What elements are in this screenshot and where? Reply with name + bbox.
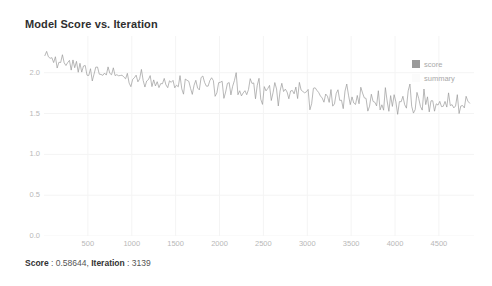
legend-label-summary: summary xyxy=(424,74,455,83)
caption-iteration-key: Iteration xyxy=(91,258,125,268)
x-tick-label: 4000 xyxy=(387,239,404,248)
y-tick-label: 0.5 xyxy=(18,191,40,199)
y-tick-label: 1.5 xyxy=(18,110,40,118)
y-tick-label: 1.0 xyxy=(18,150,40,158)
y-axis: 0.00.51.01.52.0 xyxy=(16,36,40,236)
x-tick-label: 4500 xyxy=(431,239,448,248)
page-title: Model Score vs. Iteration xyxy=(25,18,158,30)
legend-label-score: score xyxy=(424,60,442,69)
x-tick-label: 2000 xyxy=(211,239,228,248)
caption-score-value: 0.58644 xyxy=(56,258,87,268)
x-tick-label: 3000 xyxy=(299,239,316,248)
legend-swatch-score-icon xyxy=(412,60,420,68)
x-tick-label: 500 xyxy=(82,239,95,248)
x-tick-label: 1500 xyxy=(167,239,184,248)
chart-caption: Score : 0.58644, Iteration : 3139 xyxy=(25,258,151,269)
x-axis: 50010001500200025003000350040004500 xyxy=(44,239,474,251)
series-line-score xyxy=(45,51,470,114)
caption-score-separator: : xyxy=(49,258,56,268)
plot-area xyxy=(44,36,474,236)
y-tick-label: 2.0 xyxy=(18,69,40,77)
caption-iteration-value: 3139 xyxy=(132,258,151,268)
horizontal-gridlines xyxy=(44,73,474,236)
line-chart-svg xyxy=(44,36,474,236)
caption-iteration-separator: : xyxy=(125,258,132,268)
vertical-gridlines xyxy=(88,36,439,236)
x-tick-label: 3500 xyxy=(343,239,360,248)
legend-item-score[interactable]: score xyxy=(412,58,455,70)
y-tick-label: 0.0 xyxy=(18,232,40,240)
legend-item-summary[interactable]: summary xyxy=(412,72,455,84)
legend-swatch-summary-icon xyxy=(412,74,420,82)
caption-score-key: Score xyxy=(25,258,49,268)
chart-widget: Model Score vs. Iteration 0.00.51.01.52.… xyxy=(0,0,492,286)
x-tick-label: 2500 xyxy=(255,239,272,248)
x-tick-label: 1000 xyxy=(123,239,140,248)
chart-legend: score summary xyxy=(412,58,455,86)
